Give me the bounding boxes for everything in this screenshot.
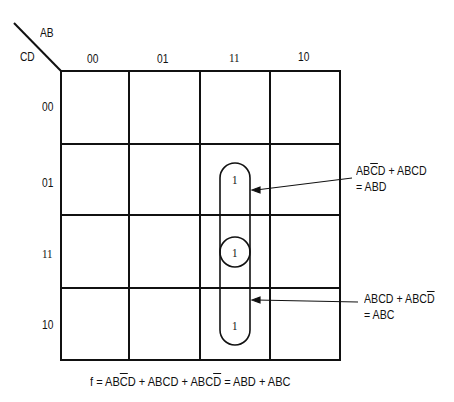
group-annotation-abd: ABCD + ABCD = ABD <box>356 163 427 195</box>
row-header: 00 <box>42 100 53 114</box>
col-header: 00 <box>87 52 98 66</box>
cell-value: 1 <box>232 172 238 188</box>
col-var-label: AB <box>40 26 54 40</box>
group-annotation-abc: ABCD + ABCD = ABC <box>364 291 435 323</box>
row-header: 10 <box>42 318 53 332</box>
col-header: 11 <box>229 50 240 66</box>
row-var-label: CD <box>20 50 35 64</box>
col-header: 01 <box>157 52 168 66</box>
kmap-grid <box>61 71 340 360</box>
cell-value: 1 <box>232 318 238 334</box>
simplified-formula: f = ABCD + ABCD + ABCD = ABD + ABC <box>90 374 291 389</box>
row-header: 01 <box>42 176 53 190</box>
arrow-head <box>252 187 260 193</box>
cell-value: 1 <box>232 245 238 261</box>
col-header: 10 <box>298 50 309 64</box>
kmap-graphics <box>0 0 454 402</box>
arrow-head <box>252 297 260 303</box>
row-header: 11 <box>42 246 53 262</box>
